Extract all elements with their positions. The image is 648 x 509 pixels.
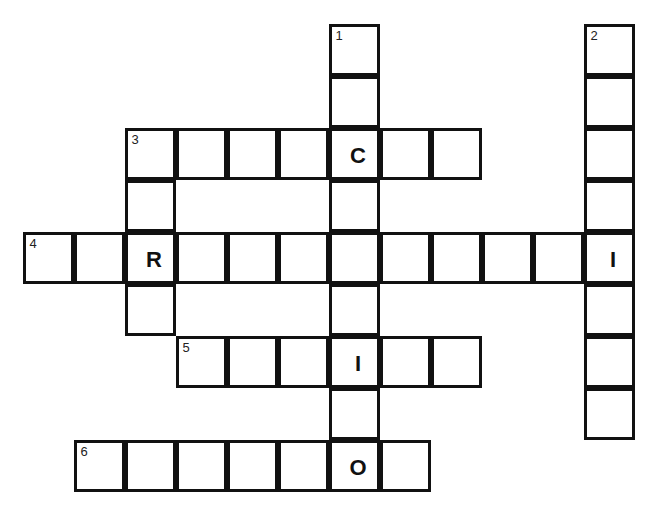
crossword-cell[interactable]: 4 [23, 232, 74, 284]
crossword-cell[interactable] [227, 232, 278, 284]
crossword-cell[interactable] [278, 128, 329, 180]
crossword-cell[interactable] [431, 232, 482, 284]
crossword-cell[interactable] [125, 284, 176, 336]
crossword-cell[interactable] [278, 232, 329, 284]
given-letter: I [332, 353, 377, 375]
given-letter: C [332, 145, 377, 167]
crossword-cell[interactable] [125, 180, 176, 232]
crossword-cell[interactable] [176, 440, 227, 492]
crossword-cell[interactable] [584, 336, 635, 388]
crossword-cell[interactable] [431, 336, 482, 388]
crossword-cell[interactable] [74, 232, 125, 284]
crossword-cell[interactable]: 3 [125, 128, 176, 180]
crossword-cell[interactable] [482, 232, 533, 284]
crossword-cell[interactable] [125, 440, 176, 492]
crossword-cell[interactable] [227, 128, 278, 180]
given-letter: R [128, 249, 173, 271]
clue-number: 2 [591, 29, 598, 42]
crossword-cell[interactable] [278, 440, 329, 492]
crossword-grid: 1CIO2I3R456 [0, 0, 648, 509]
crossword-cell[interactable]: 1 [329, 24, 380, 76]
crossword-cell[interactable] [329, 180, 380, 232]
crossword-cell[interactable] [380, 232, 431, 284]
crossword-cell[interactable] [329, 388, 380, 440]
crossword-cell[interactable]: 5 [176, 336, 227, 388]
crossword-cell[interactable]: I [584, 232, 635, 284]
crossword-cell[interactable]: 2 [584, 24, 635, 76]
crossword-cell[interactable]: R [125, 232, 176, 284]
crossword-cell[interactable] [584, 128, 635, 180]
crossword-cell[interactable] [431, 128, 482, 180]
clue-number: 3 [132, 133, 139, 146]
crossword-cell[interactable] [329, 232, 380, 284]
crossword-cell[interactable] [380, 336, 431, 388]
crossword-cell[interactable] [329, 284, 380, 336]
crossword-cell[interactable] [584, 388, 635, 440]
crossword-cell[interactable] [533, 232, 584, 284]
given-letter: O [332, 457, 377, 479]
crossword-cell[interactable]: I [329, 336, 380, 388]
crossword-cell[interactable]: O [329, 440, 380, 492]
clue-number: 4 [30, 237, 37, 250]
crossword-cell[interactable] [584, 76, 635, 128]
clue-number: 5 [183, 341, 190, 354]
crossword-cell[interactable] [329, 76, 380, 128]
crossword-cell[interactable] [278, 336, 329, 388]
crossword-cell[interactable] [380, 128, 431, 180]
crossword-cell[interactable] [227, 440, 278, 492]
crossword-cell[interactable] [176, 232, 227, 284]
crossword-cell[interactable] [227, 336, 278, 388]
crossword-cell[interactable] [584, 284, 635, 336]
crossword-cell[interactable] [584, 180, 635, 232]
crossword-cell[interactable]: C [329, 128, 380, 180]
crossword-cell[interactable] [380, 440, 431, 492]
clue-number: 1 [336, 29, 343, 42]
given-letter: I [587, 249, 632, 271]
crossword-cell[interactable]: 6 [74, 440, 125, 492]
clue-number: 6 [81, 445, 88, 458]
crossword-cell[interactable] [176, 128, 227, 180]
